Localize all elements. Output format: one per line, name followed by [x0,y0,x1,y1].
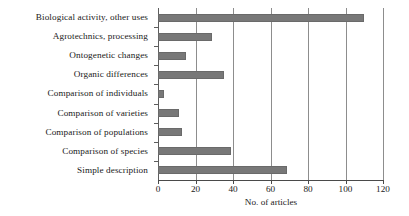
bar-row [158,123,383,142]
bar [158,128,182,136]
bar-row [158,8,383,27]
category-label: Organic differences [0,65,153,84]
plot-area [158,8,383,180]
bar-row [158,46,383,65]
category-label: Ontogenetic changes [0,46,153,65]
x-axis-tick-label: 40 [228,185,237,194]
y-axis-tick [154,46,158,47]
y-axis-tick [154,142,158,143]
y-axis-tick [154,104,158,105]
category-label: Comparison of species [0,142,153,161]
x-axis-tick-label: 120 [376,185,390,194]
bar-row [158,161,383,180]
y-axis-tick [154,65,158,66]
category-axis-labels: Biological activity, other usesAgrotechn… [0,8,153,180]
bar-row [158,84,383,103]
y-axis-tick [154,84,158,85]
y-axis-tick [154,161,158,162]
y-axis-tick [154,123,158,124]
x-axis-tick-label: 60 [266,185,275,194]
bar [158,14,364,22]
category-label: Comparison of populations [0,123,153,142]
category-label: Biological activity, other uses [0,8,153,27]
bar-row [158,142,383,161]
bar [158,33,212,41]
x-axis-tick-label: 0 [156,185,161,194]
x-axis-tick-label: 80 [303,185,312,194]
bar [158,166,287,174]
bar-row [158,65,383,84]
bar [158,109,179,117]
bar-row [158,27,383,46]
category-label: Comparison of varieties [0,104,153,123]
category-label: Comparison of individuals [0,84,153,103]
x-axis-title: No. of articles [158,198,384,207]
category-label: Simple description [0,161,153,180]
y-axis-tick [154,27,158,28]
gridline [383,8,384,180]
bar [158,71,224,79]
x-axis-tick-label: 100 [339,185,353,194]
category-label: Agrotechnics, processing [0,27,153,46]
bar-chart: Biological activity, other usesAgrotechn… [0,0,409,216]
bar-series [158,8,383,180]
bar-row [158,104,383,123]
bar [158,52,186,60]
bar [158,90,164,98]
x-axis-tick-label: 20 [191,185,200,194]
bar [158,147,231,155]
